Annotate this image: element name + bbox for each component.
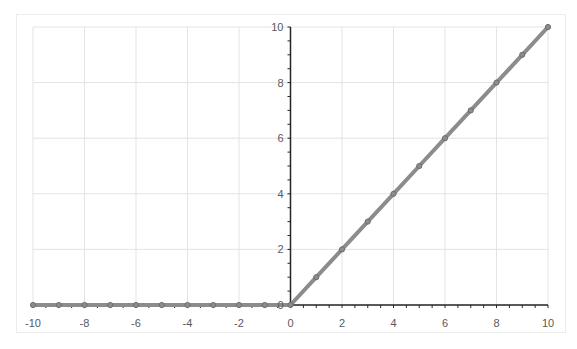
x-tick-label: 8 (493, 317, 499, 329)
data-point-marker (262, 302, 267, 307)
data-point-marker (56, 302, 61, 307)
data-point-marker (545, 24, 550, 29)
x-tick-label: -6 (131, 317, 141, 329)
x-tick-label: -10 (25, 317, 41, 329)
data-point-marker (211, 302, 216, 307)
data-point-marker (520, 52, 525, 57)
data-point-marker (365, 219, 370, 224)
x-tick-label: 4 (390, 317, 396, 329)
data-point-marker (391, 191, 396, 196)
y-tick-label: 2 (277, 243, 283, 255)
x-tick-label: 2 (339, 317, 345, 329)
x-tick-label: 10 (542, 317, 554, 329)
x-tick-label: -2 (234, 317, 244, 329)
data-point-marker (442, 136, 447, 141)
tick-labels: -10-8-6-4-202468100246810 (25, 21, 554, 329)
y-tick-label: 4 (277, 188, 283, 200)
data-point-marker (288, 302, 293, 307)
data-point-marker (108, 302, 113, 307)
data-point-marker (314, 275, 319, 280)
data-point-marker (82, 302, 87, 307)
data-point-marker (185, 302, 190, 307)
y-tick-label: 8 (277, 77, 283, 89)
axes (33, 27, 548, 308)
data-point-marker (468, 108, 473, 113)
data-point-marker (30, 302, 35, 307)
relu-line-chart: -10-8-6-4-202468100246810 (0, 0, 577, 349)
data-point-marker (236, 302, 241, 307)
data-point-marker (159, 302, 164, 307)
data-point-marker (133, 302, 138, 307)
y-tick-label: 0 (277, 299, 283, 311)
y-tick-label: 6 (277, 132, 283, 144)
data-point-marker (417, 163, 422, 168)
x-tick-label: 0 (287, 317, 293, 329)
data-point-marker (339, 247, 344, 252)
x-tick-label: -4 (183, 317, 193, 329)
x-tick-label: -8 (80, 317, 90, 329)
y-tick-label: 10 (271, 21, 283, 33)
data-point-marker (494, 80, 499, 85)
x-tick-label: 6 (442, 317, 448, 329)
